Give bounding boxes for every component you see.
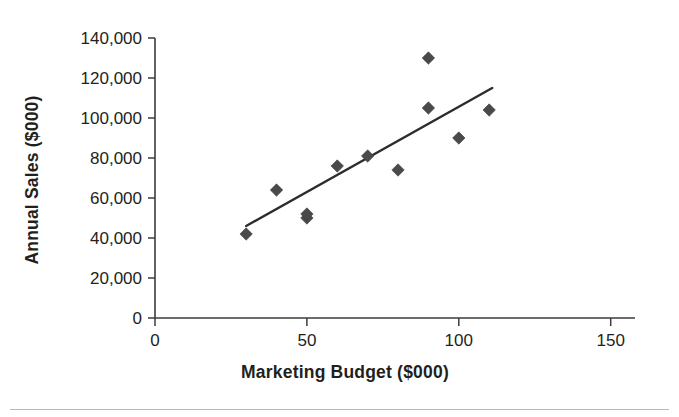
- data-point-marker: [422, 52, 434, 64]
- data-point-marker: [483, 104, 495, 116]
- y-tick-label: 60,000: [90, 189, 142, 208]
- y-tick-label: 80,000: [90, 149, 142, 168]
- x-tick-label: 150: [597, 331, 625, 350]
- data-point-marker: [270, 184, 282, 196]
- y-tick-label: 40,000: [90, 229, 142, 248]
- y-tick-label: 0: [133, 309, 142, 328]
- y-tick-label: 20,000: [90, 269, 142, 288]
- axes-lines: [148, 38, 635, 326]
- data-points-group: [240, 52, 495, 240]
- x-tick-label: 100: [445, 331, 473, 350]
- y-axis-tick-labels: 020,00040,00060,00080,000100,000120,0001…: [81, 29, 142, 328]
- y-axis-title: Annual Sales ($000): [22, 95, 42, 264]
- scatter-plot-figure: 020,00040,00060,00080,000100,000120,0001…: [0, 0, 679, 417]
- data-point-marker: [453, 132, 465, 144]
- y-tick-label: 100,000: [81, 109, 142, 128]
- data-point-marker: [240, 228, 252, 240]
- x-tick-label: 0: [150, 331, 159, 350]
- data-point-marker: [331, 160, 343, 172]
- x-tick-label: 50: [297, 331, 316, 350]
- data-point-marker: [422, 102, 434, 114]
- chart-canvas: 020,00040,00060,00080,000100,000120,0001…: [0, 0, 679, 417]
- y-tick-label: 120,000: [81, 69, 142, 88]
- footer-divider: [10, 409, 669, 410]
- x-axis-tick-labels: 050100150: [150, 331, 625, 350]
- x-axis-title: Marketing Budget ($000): [241, 362, 449, 382]
- data-point-marker: [392, 164, 404, 176]
- y-tick-label: 140,000: [81, 29, 142, 48]
